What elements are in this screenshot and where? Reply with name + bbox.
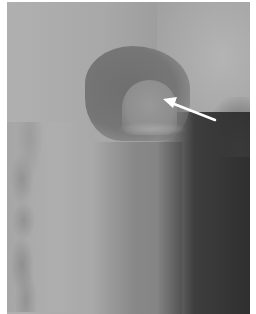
radiograph-image	[7, 2, 250, 314]
arrow-annotation-icon	[7, 2, 250, 314]
